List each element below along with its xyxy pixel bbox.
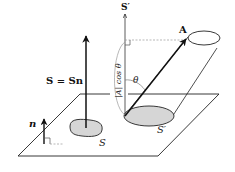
angle-theta-label: θ — [133, 75, 139, 85]
s-prime-axis-label: S′ — [121, 2, 130, 12]
area-s-prime-label: S′ — [157, 124, 167, 135]
projection-guide — [125, 40, 183, 45]
right-angle-marker-n — [44, 138, 63, 144]
flux-diagram: S = Sn n S S′ S′ A θ |A| cos θ — [0, 0, 235, 172]
projection-label: |A| cos θ — [114, 63, 123, 98]
s-vector-label: S = Sn — [46, 75, 84, 86]
area-s-label: S — [99, 137, 106, 148]
plane — [18, 94, 219, 156]
n-vector-label: n — [29, 118, 36, 129]
vector-a-label: A — [178, 24, 187, 35]
cylinder-top-ellipse — [188, 31, 220, 45]
